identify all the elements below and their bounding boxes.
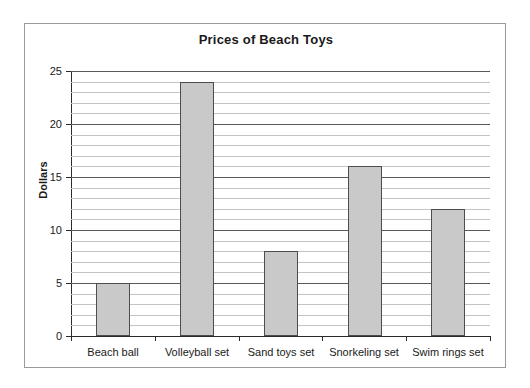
x-tick-mark <box>71 336 72 341</box>
y-tick-label: 20 <box>50 118 62 130</box>
x-axis-label: Swim rings set <box>406 346 490 358</box>
x-axis-labels: Beach ballVolleyball setSand toys setSno… <box>71 346 491 366</box>
y-tick-label: 15 <box>50 171 62 183</box>
bar <box>431 209 465 336</box>
x-axis-label: Beach ball <box>71 346 155 358</box>
x-axis-label: Snorkeling set <box>322 346 406 358</box>
x-tick-mark <box>490 336 491 341</box>
bar <box>96 283 130 336</box>
chart-title: Prices of Beach Toys <box>25 32 507 47</box>
y-tick-label: 5 <box>56 277 62 289</box>
y-axis-title: Dollars <box>37 135 49 225</box>
chart-figure: Prices of Beach Toys Dollars 0510152025 … <box>24 23 506 368</box>
bar <box>348 166 382 336</box>
x-tick-mark <box>239 336 240 341</box>
x-tick-mark <box>155 336 156 341</box>
bar <box>180 82 214 336</box>
x-axis-label: Volleyball set <box>155 346 239 358</box>
x-tick-mark <box>406 336 407 341</box>
x-axis-line <box>71 336 491 337</box>
y-tick-label: 10 <box>50 224 62 236</box>
y-tick-label: 25 <box>50 65 62 77</box>
y-tick-label: 0 <box>56 330 62 342</box>
plot-area: 0510152025 <box>71 71 490 336</box>
x-tick-mark <box>322 336 323 341</box>
bar-series <box>71 71 490 336</box>
x-axis-label: Sand toys set <box>239 346 323 358</box>
bar <box>264 251 298 336</box>
